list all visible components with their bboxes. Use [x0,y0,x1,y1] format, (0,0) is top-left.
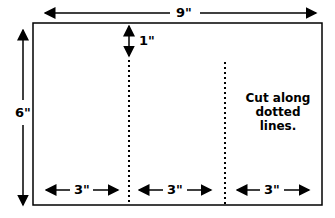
instruction-line-2: dotted [243,105,313,119]
instruction-line-1: Cut along [243,91,313,105]
top-margin-label: 1" [139,34,155,48]
cut-instruction: Cut along dotted lines. [243,91,313,133]
height-label: 6" [15,106,31,120]
instruction-line-3: lines. [243,119,313,133]
section-label-2: 3" [167,183,183,197]
width-label: 9" [176,6,192,20]
section-label-3: 3" [264,183,280,197]
section-label-1: 3" [74,183,90,197]
